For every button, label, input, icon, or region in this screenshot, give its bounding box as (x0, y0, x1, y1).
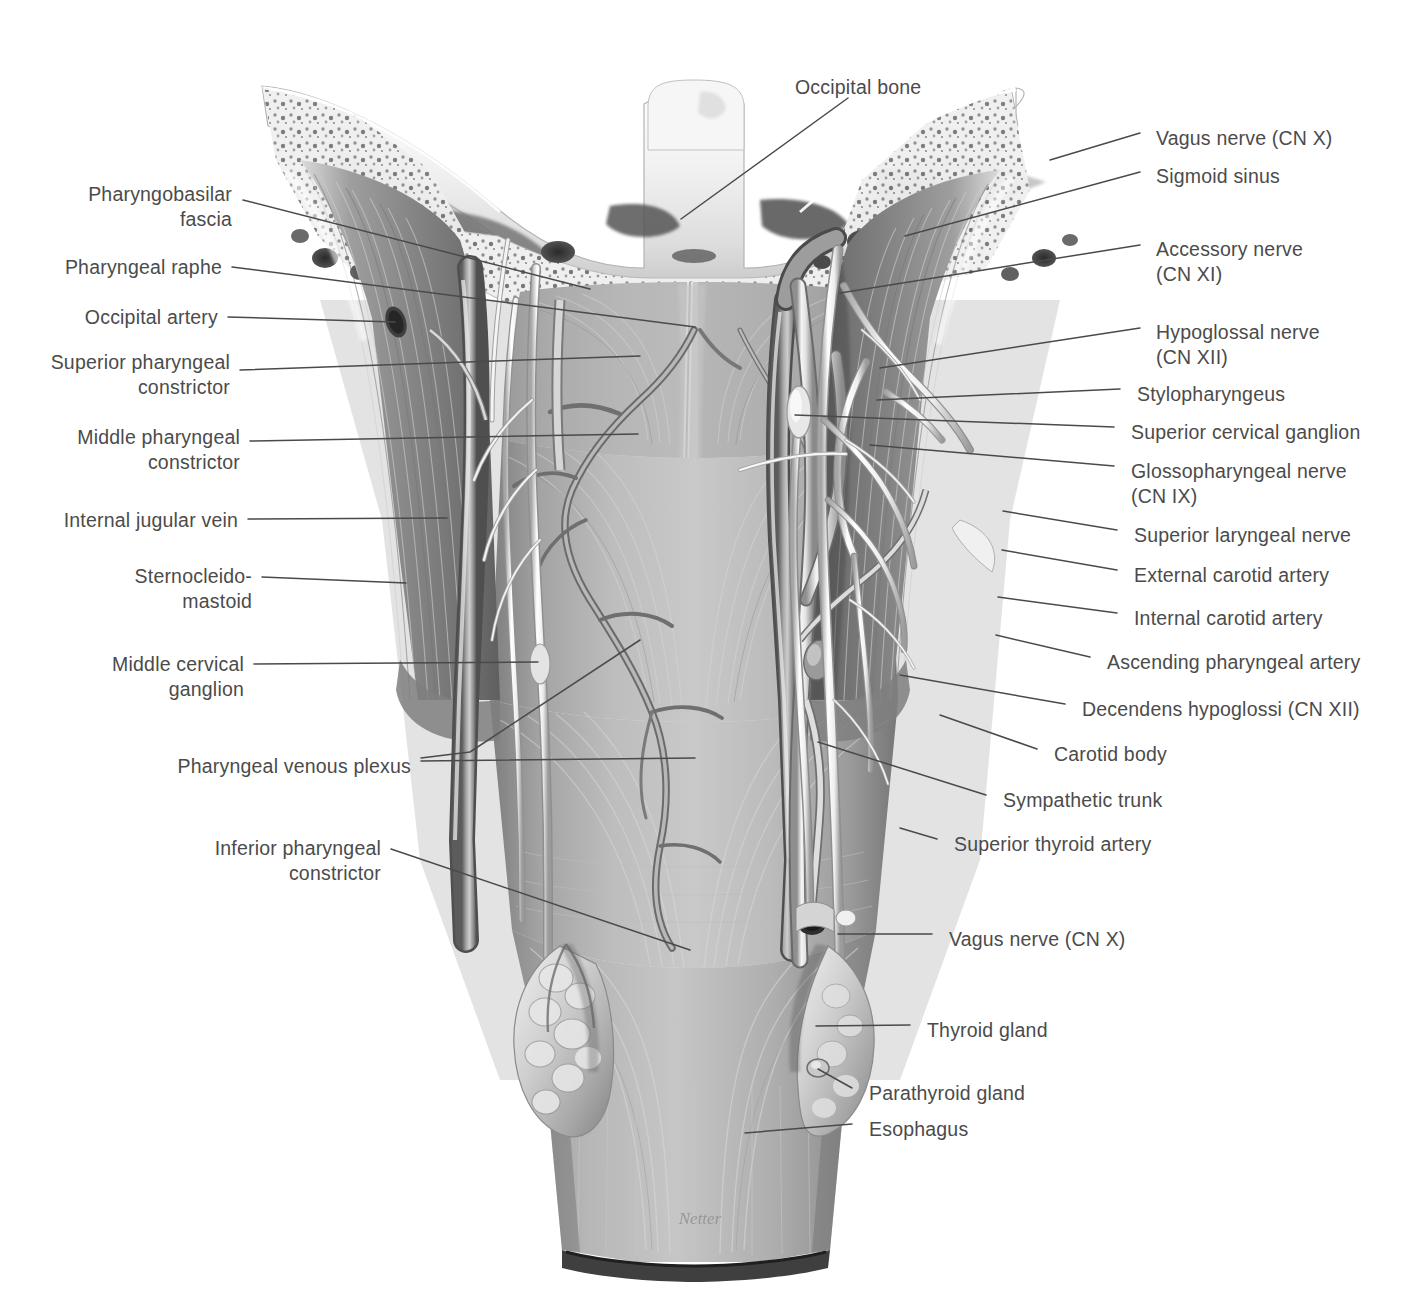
label-middle-cervical-ganglion: Middle cervical ganglion (0, 652, 244, 702)
label-esophagus: Esophagus (869, 1117, 968, 1142)
label-hypoglossal-nerve-cn-xii: Hypoglossal nerve (CN XII) (1156, 320, 1320, 370)
label-internal-carotid-artery: Internal carotid artery (1134, 606, 1323, 631)
label-decendens-hypoglossi-cn-xii: Decendens hypoglossi (CN XII) (1082, 697, 1360, 722)
label-pharyngobasilar-fascia: Pharyngobasilar fascia (0, 182, 232, 232)
label-sigmoid-sinus: Sigmoid sinus (1156, 164, 1280, 189)
label-occipital-bone: Occipital bone (795, 75, 921, 100)
label-superior-cervical-ganglion: Superior cervical ganglion (1131, 420, 1360, 445)
artist-signature: Netter (678, 1209, 722, 1228)
label-stylopharyngeus: Stylopharyngeus (1137, 382, 1285, 407)
label-pharyngeal-venous-plexus: Pharyngeal venous plexus (0, 754, 411, 779)
label-parathyroid-gland: Parathyroid gland (869, 1081, 1025, 1106)
label-vagus-nerve-cn-x-lower: Vagus nerve (CN X) (949, 927, 1126, 952)
label-accessory-nerve-cn-xi: Accessory nerve (CN XI) (1156, 237, 1303, 287)
label-external-carotid-artery: External carotid artery (1134, 563, 1329, 588)
label-vagus-nerve-cn-x-upper: Vagus nerve (CN X) (1156, 126, 1333, 151)
label-middle-pharyngeal-constrictor: Middle pharyngeal constrictor (0, 425, 240, 475)
figure-page: Netter (0, 0, 1403, 1298)
label-sternocleidomastoid: Sternocleido- mastoid (0, 564, 252, 614)
label-inferior-pharyngeal-constrictor: Inferior pharyngeal constrictor (0, 836, 381, 886)
label-ascending-pharyngeal-artery: Ascending pharyngeal artery (1107, 650, 1361, 675)
label-thyroid-gland: Thyroid gland (927, 1018, 1048, 1043)
label-internal-jugular-vein: Internal jugular vein (0, 508, 238, 533)
label-pharyngeal-raphe: Pharyngeal raphe (0, 255, 222, 280)
middle-cervical-ganglion-shape (530, 644, 550, 684)
label-carotid-body: Carotid body (1054, 742, 1167, 767)
label-superior-thyroid-artery: Superior thyroid artery (954, 832, 1151, 857)
label-occipital-artery: Occipital artery (0, 305, 218, 330)
label-superior-pharyngeal-constrictor: Superior pharyngeal constrictor (0, 350, 230, 400)
label-superior-laryngeal-nerve: Superior laryngeal nerve (1134, 523, 1351, 548)
label-sympathetic-trunk: Sympathetic trunk (1003, 788, 1162, 813)
label-glossopharyngeal-nerve-cn-ix: Glossopharyngeal nerve (CN IX) (1131, 459, 1347, 509)
